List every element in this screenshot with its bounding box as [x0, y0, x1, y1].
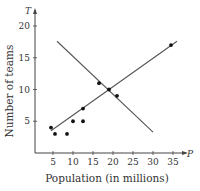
- data-point: [49, 126, 53, 130]
- y-axis-variable: T: [25, 6, 32, 16]
- x-axis-variable: P: [186, 149, 194, 159]
- x-tick-label: 20: [107, 157, 119, 167]
- x-tick-label: 25: [127, 157, 139, 167]
- data-point: [65, 132, 69, 136]
- x-tick-label: 35: [167, 157, 179, 167]
- data-point: [115, 94, 119, 98]
- data-point: [107, 88, 111, 92]
- decreasing-fit-line: [57, 41, 153, 132]
- increasing-fit-line: [51, 41, 177, 131]
- y-axis-arrow-icon: [33, 8, 37, 14]
- fit-lines: [51, 41, 177, 132]
- y-tick-label: 10: [19, 85, 31, 95]
- data-point: [53, 132, 57, 136]
- x-tick-label: 10: [67, 157, 79, 167]
- data-point: [81, 119, 85, 123]
- y-tick-label: 5: [24, 116, 30, 126]
- x-axis-label: Population (in millions): [45, 172, 169, 184]
- axes: 51015202530355101520: [19, 8, 188, 167]
- scatter-chart: 51015202530355101520 Number of teams Pop…: [0, 0, 200, 191]
- data-point: [169, 43, 173, 47]
- data-point: [81, 107, 85, 111]
- y-axis-label: Number of teams: [3, 45, 15, 138]
- x-tick-label: 30: [147, 157, 159, 167]
- y-tick-label: 20: [19, 21, 31, 31]
- data-point: [97, 81, 101, 85]
- x-tick-label: 5: [50, 157, 56, 167]
- x-tick-label: 15: [87, 157, 99, 167]
- y-tick-label: 15: [19, 53, 31, 63]
- data-point: [71, 119, 75, 123]
